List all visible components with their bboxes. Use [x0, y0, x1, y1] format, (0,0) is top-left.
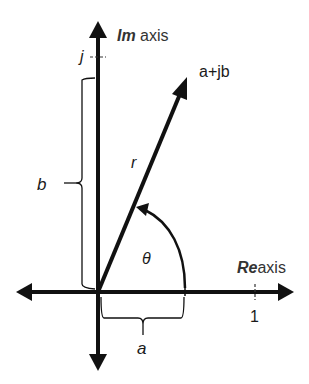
real-axis	[16, 283, 294, 301]
imag-axis-up-arrow-icon	[89, 21, 107, 38]
imag-unit-label: j	[78, 48, 84, 65]
angle-arc	[136, 203, 185, 288]
re-axis-label: Reaxis	[237, 259, 286, 276]
imag-axis-down-arrow-icon	[89, 354, 107, 371]
point-label: a+jb	[199, 63, 230, 80]
imag-part-label: b	[37, 175, 46, 194]
im-axis-label: Im axis	[117, 27, 169, 44]
real-part-brace	[101, 297, 184, 324]
angle-arrow-icon	[136, 203, 149, 216]
real-axis-left-arrow-icon	[16, 283, 32, 301]
angle-label: θ	[142, 250, 151, 267]
imag-part-brace	[76, 78, 95, 289]
real-unit-label: 1	[250, 308, 259, 325]
complex-plane-diagram: Im axis Reaxis a+jb r θ b a j 1	[0, 0, 309, 384]
vector-arrow-icon	[172, 77, 187, 100]
real-part-label: a	[137, 339, 146, 358]
real-axis-right-arrow-icon	[278, 283, 294, 301]
magnitude-label: r	[131, 154, 137, 171]
